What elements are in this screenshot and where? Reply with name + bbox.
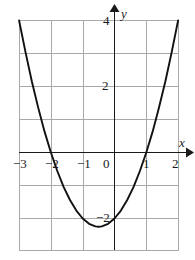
y-tick-label-2: 2 bbox=[102, 79, 109, 92]
y-axis-label: y bbox=[121, 7, 127, 20]
parabola-curve bbox=[19, 21, 178, 227]
x-tick-label-2: 2 bbox=[172, 157, 179, 170]
x-axis-arrowhead bbox=[186, 148, 194, 158]
x-tick-label-1: 1 bbox=[143, 157, 150, 170]
y-tick-label-4: 4 bbox=[103, 14, 110, 27]
graph-figure: −3 −2 −1 0 1 2 4 2 −2 y x bbox=[0, 0, 195, 260]
x-tick-label--2: −2 bbox=[45, 157, 59, 170]
x-axis-label: x bbox=[179, 136, 185, 149]
x-tick-label-0: 0 bbox=[103, 157, 110, 170]
y-tick-label--2: −2 bbox=[96, 211, 110, 224]
x-tick-label--1: −1 bbox=[77, 157, 91, 170]
y-axis-arrowhead bbox=[110, 4, 120, 12]
x-tick-label--3: −3 bbox=[13, 157, 27, 170]
